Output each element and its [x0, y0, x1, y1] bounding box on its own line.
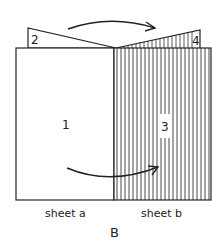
- flap-2-triangle: [28, 28, 116, 48]
- flap-4-triangle: [116, 28, 200, 48]
- panel-label: B: [110, 225, 119, 240]
- folding-diagram: 2 4 1 3 sheet a sheet b B: [0, 0, 223, 245]
- region-label-3: 3: [161, 120, 169, 134]
- caption-sheet-b: sheet b: [141, 207, 182, 220]
- caption-sheet-a: sheet a: [45, 207, 86, 220]
- region-label-2: 2: [31, 33, 39, 47]
- top-fold-arrow-icon: [68, 21, 155, 31]
- region-label-1: 1: [62, 118, 70, 132]
- region-label-4: 4: [192, 34, 200, 48]
